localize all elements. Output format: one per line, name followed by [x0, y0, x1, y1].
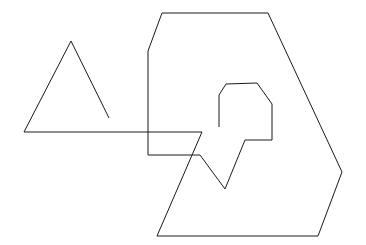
- line-drawing-svg: [0, 0, 366, 245]
- triangle-with-tail-path: [24, 41, 202, 132]
- inner-zigzag-and-outer-outline-path: [148, 13, 342, 236]
- figure-canvas: [0, 0, 366, 245]
